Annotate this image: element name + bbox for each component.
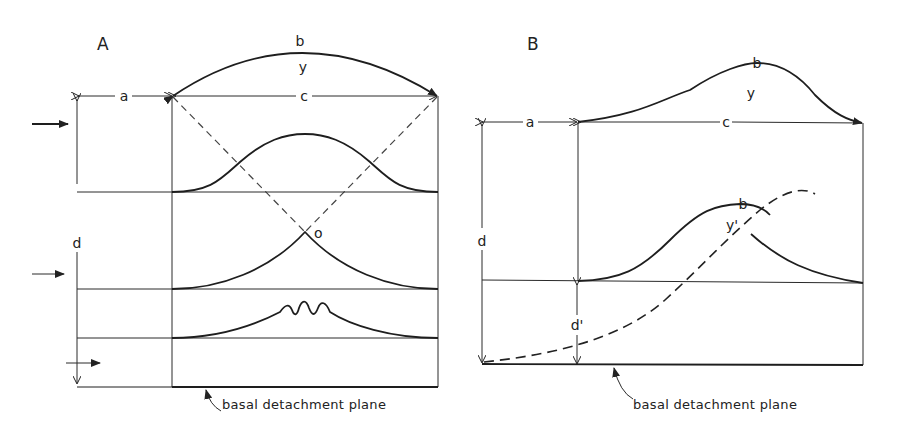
label-a: a (120, 88, 129, 104)
label-d: d (73, 235, 82, 251)
panel-b-title: B (527, 34, 539, 54)
label-d: d (478, 233, 487, 249)
fold-b-left (578, 204, 770, 281)
top-curve-b (578, 63, 862, 123)
label-a: a (526, 114, 535, 130)
label-b: b (296, 33, 305, 49)
fold-diagram: A b y a c d o (0, 0, 903, 444)
panel-b: B b y a c d b y' d' (478, 34, 863, 412)
label-c: c (300, 88, 308, 104)
panel-a-title: A (97, 34, 109, 54)
label-b: b (753, 55, 762, 71)
label-d2: d' (571, 317, 584, 333)
fold-3-wavy (172, 302, 438, 338)
fold-b-right (751, 234, 863, 283)
caption-b: basal detachment plane (633, 397, 797, 412)
panel-a: A b y a c d o (32, 33, 438, 412)
dashed-line-left (173, 97, 305, 232)
label-b2: b (739, 196, 748, 212)
label-o: o (314, 225, 323, 241)
fold-2-cusp (172, 232, 438, 289)
label-c: c (722, 114, 730, 130)
fold-1 (172, 134, 438, 192)
dashed-thrust-line (484, 190, 815, 362)
dashed-line-right (305, 97, 437, 232)
label-y: y (747, 85, 755, 101)
label-y: y (299, 59, 307, 75)
caption-a: basal detachment plane (222, 397, 386, 412)
